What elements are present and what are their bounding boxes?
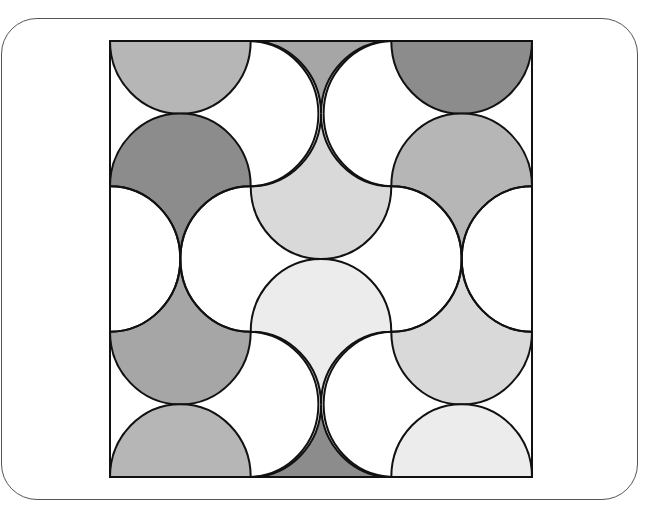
tiling-figure (0, 0, 662, 506)
